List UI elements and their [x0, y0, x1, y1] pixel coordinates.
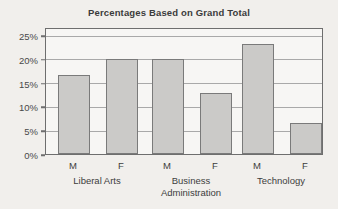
x-axis-group-label-line: Technology	[257, 175, 305, 187]
y-axis-tick-label: 5%	[0, 126, 38, 137]
x-axis-series-label: M	[69, 160, 77, 171]
x-axis-series-label: M	[163, 160, 171, 171]
x-axis-group-label: Technology	[257, 175, 305, 187]
x-axis-group-label: BusinessAdministration	[161, 175, 221, 198]
x-axis-group-label: Liberal Arts	[73, 175, 121, 187]
bar-business-administration-f	[200, 93, 232, 154]
x-axis-series-label: F	[212, 160, 218, 171]
gridline	[46, 59, 322, 60]
gridline	[46, 36, 322, 37]
x-axis-series-label: F	[118, 160, 124, 171]
x-axis-group-label-line: Liberal Arts	[73, 175, 121, 187]
y-axis-tick-label: 25%	[0, 31, 38, 42]
bar-technology-f	[290, 123, 322, 154]
y-axis-tick-label: 15%	[0, 78, 38, 89]
x-axis-group-label-line: Business	[161, 175, 221, 187]
x-axis-series-label: M	[253, 160, 261, 171]
chart-title: Percentages Based on Grand Total	[0, 7, 338, 18]
bar-business-administration-m	[152, 59, 184, 154]
bar-chart-figure: Percentages Based on Grand Total 0%5%10%…	[0, 0, 338, 209]
bar-liberal-arts-m	[58, 75, 90, 154]
plot-area	[45, 28, 323, 155]
y-axis-tick-label: 10%	[0, 102, 38, 113]
y-axis-tick-label: 0%	[0, 150, 38, 161]
bar-technology-m	[242, 44, 274, 154]
x-axis-group-label-line: Administration	[161, 187, 221, 199]
y-axis-tick-label: 20%	[0, 54, 38, 65]
x-axis-series-label: F	[302, 160, 308, 171]
bar-liberal-arts-f	[106, 59, 138, 154]
